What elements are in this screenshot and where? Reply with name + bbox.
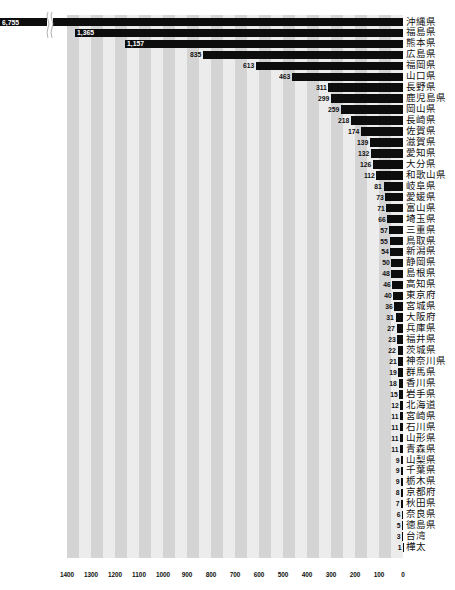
value-label: 57 <box>380 226 388 235</box>
bar <box>391 259 403 268</box>
category-label: 愛知県 <box>406 148 436 159</box>
bar <box>292 73 403 82</box>
bar <box>402 511 403 520</box>
category-label: 栃木県 <box>406 476 436 487</box>
grid-stripe <box>91 15 103 558</box>
value-label: 11 <box>392 423 399 432</box>
bar <box>400 412 403 421</box>
category-label: 青森県 <box>406 444 436 455</box>
category-label: 神奈川県 <box>406 356 446 367</box>
bar <box>331 94 403 103</box>
category-label: 宮崎県 <box>406 411 436 422</box>
value-label: 7 <box>396 499 400 508</box>
grid-stripe <box>187 15 199 558</box>
value-label: 19 <box>389 368 397 377</box>
value-label: 23 <box>388 335 396 344</box>
x-tick-label: 300 <box>326 570 337 579</box>
bar <box>400 423 403 432</box>
bar <box>399 390 403 399</box>
category-label: 岡山県 <box>406 104 436 115</box>
grid-stripe <box>139 15 151 558</box>
x-tick-label: 1200 <box>108 570 122 579</box>
grid-stripe <box>295 15 307 558</box>
value-label: 18 <box>390 379 398 388</box>
category-label: 沖縄県 <box>406 17 436 28</box>
x-tick-label: 1100 <box>132 570 146 579</box>
axis-break-icon <box>46 12 54 38</box>
category-label: 兵庫県 <box>406 323 436 334</box>
value-label: 3 <box>397 532 401 541</box>
category-label: 石川県 <box>406 422 436 433</box>
value-label: 40 <box>384 291 392 300</box>
category-label: 広島県 <box>406 49 436 60</box>
value-label: 259 <box>328 105 339 114</box>
bar <box>371 149 403 158</box>
value-label: 112 <box>364 171 375 180</box>
bar <box>391 270 403 279</box>
value-label: 5 <box>397 521 401 530</box>
category-label: 秋田県 <box>406 498 436 509</box>
value-label: 1 <box>397 543 401 552</box>
value-label: 11 <box>392 445 399 454</box>
category-label: 山形県 <box>406 433 436 444</box>
bar <box>384 182 403 191</box>
grid-stripe <box>259 15 271 558</box>
category-label: 福岡県 <box>406 60 436 71</box>
category-label: 三重県 <box>406 225 436 236</box>
category-label: 静岡県 <box>406 257 436 268</box>
bar <box>401 489 403 498</box>
value-label: 46 <box>383 280 391 289</box>
bar <box>398 346 403 355</box>
category-label: 群馬県 <box>406 367 436 378</box>
grid-stripe <box>223 15 235 558</box>
value-label: 73 <box>376 193 384 202</box>
bar <box>390 248 403 257</box>
category-label: 滋賀県 <box>406 137 436 148</box>
value-label: 299 <box>318 94 329 103</box>
bar <box>376 171 403 180</box>
value-label: 9 <box>396 477 400 486</box>
bar <box>351 116 403 125</box>
bar <box>394 302 403 311</box>
value-label: 1,365 <box>77 28 94 37</box>
category-label: 宮城県 <box>406 301 436 312</box>
bar <box>203 51 403 60</box>
grid-stripe <box>127 15 139 558</box>
grid-stripe <box>115 15 127 558</box>
value-label: 311 <box>316 83 327 92</box>
bar <box>386 204 403 213</box>
x-tick-label: 700 <box>230 570 241 579</box>
value-label: 55 <box>381 237 389 246</box>
bar <box>400 445 403 454</box>
category-label: 長崎県 <box>406 115 436 126</box>
grid-stripe <box>151 15 163 558</box>
bar <box>256 62 403 71</box>
value-label: 12 <box>391 401 399 410</box>
grid-stripe <box>283 15 295 558</box>
bar <box>397 335 403 344</box>
value-label: 174 <box>348 127 359 136</box>
x-tick-label: 900 <box>182 570 193 579</box>
bar-chart: 6,7551,3651,1578356134633112992592181741… <box>0 0 455 590</box>
category-label: 茨城県 <box>406 345 436 356</box>
x-tick-label: 1400 <box>60 570 74 579</box>
grid-stripe <box>103 15 115 558</box>
bar <box>402 532 403 541</box>
value-label: 9 <box>396 456 400 465</box>
value-label: 613 <box>243 61 254 70</box>
bar <box>398 368 403 377</box>
category-label: 北海道 <box>406 400 436 411</box>
category-label: 徳島県 <box>406 520 436 531</box>
bar <box>397 324 403 333</box>
grid-stripe <box>211 15 223 558</box>
grid-stripe <box>199 15 211 558</box>
value-label: 11 <box>392 412 399 421</box>
value-label: 27 <box>387 324 395 333</box>
x-tick-label: 200 <box>350 570 361 579</box>
bar <box>341 105 403 114</box>
category-label: 愛媛県 <box>406 192 436 203</box>
grid-stripe <box>235 15 247 558</box>
value-label: 81 <box>374 182 382 191</box>
value-label: 218 <box>338 116 349 125</box>
category-label: 千葉県 <box>406 465 436 476</box>
